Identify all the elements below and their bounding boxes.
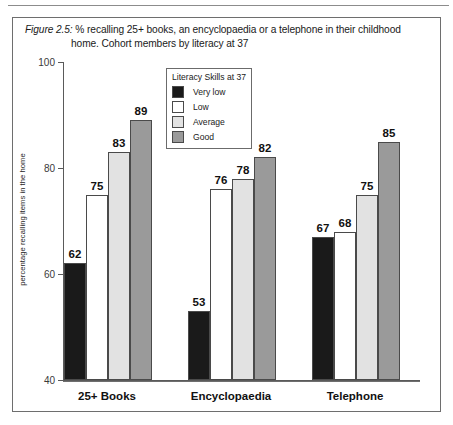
bar (356, 195, 378, 381)
bar-value-label: 75 (361, 180, 374, 192)
bar-value-label: 78 (237, 164, 250, 176)
legend-swatch-icon (172, 131, 184, 143)
bar-column: 67 (312, 62, 334, 380)
x-axis-category-label: 25+ Books (78, 390, 136, 402)
bar-value-label: 68 (339, 217, 352, 229)
legend-item-label: Low (193, 102, 209, 112)
bar-group: 67687585 (312, 62, 400, 380)
top-divider-rule (8, 5, 449, 6)
bar-value-label: 62 (69, 248, 82, 260)
x-axis-category-band: 25+ BooksEncyclopaediaTelephone (63, 381, 420, 411)
bar-value-label: 82 (259, 142, 272, 154)
bar (64, 263, 86, 380)
bar-column: 62 (64, 62, 86, 380)
bar-value-label: 67 (317, 222, 330, 234)
legend-swatch-icon (172, 116, 184, 128)
bar (86, 195, 108, 381)
bar-column: 75 (86, 62, 108, 380)
bar-value-label: 75 (91, 180, 104, 192)
legend-item-label: Good (193, 132, 214, 142)
legend-item: Very low (172, 84, 247, 99)
bar-value-label: 89 (135, 105, 148, 117)
legend-item: Good (172, 129, 247, 144)
legend-title: Literacy Skills at 37 (172, 72, 247, 82)
bar (108, 152, 130, 380)
figure-number: Figure 2.5: (25, 24, 73, 35)
x-axis-category-label: Telephone (327, 390, 384, 402)
bar-value-label: 83 (113, 137, 126, 149)
legend-item: Low (172, 99, 247, 114)
bar (312, 237, 334, 380)
legend-swatch-icon (172, 101, 184, 113)
caption-line-2: home. Cohort members by literacy at 37 (25, 37, 435, 51)
bar-group: 62758389 (64, 62, 152, 380)
legend-item: Average (172, 114, 247, 129)
bar-column: 75 (356, 62, 378, 380)
legend-swatch-icon (172, 86, 184, 98)
bar (254, 157, 276, 380)
bar-value-label: 85 (383, 127, 396, 139)
bar-column: 89 (130, 62, 152, 380)
bar (188, 311, 210, 380)
legend-item-label: Very low (193, 87, 225, 97)
bar (334, 232, 356, 380)
bar-column: 83 (108, 62, 130, 380)
legend-item-label: Average (193, 117, 225, 127)
bar-value-label: 53 (193, 296, 206, 308)
legend-rows: Very lowLowAverageGood (172, 84, 247, 144)
bar (378, 142, 400, 381)
caption-line-1: % recalling 25+ books, an encyclopaedia … (73, 24, 401, 35)
bar-value-label: 76 (215, 174, 228, 186)
bar (232, 179, 254, 380)
bar-column: 68 (334, 62, 356, 380)
bar (130, 120, 152, 380)
x-axis-category-label: Encyclopaedia (191, 390, 272, 402)
bar-column: 85 (378, 62, 400, 380)
figure-caption: Figure 2.5: % recalling 25+ books, an en… (25, 23, 435, 50)
y-axis-title: percentage recalling items in the home (18, 125, 27, 315)
bar (210, 189, 232, 380)
bar-column: 82 (254, 62, 276, 380)
chart-legend: Literacy Skills at 37 Very lowLowAverage… (166, 68, 252, 149)
